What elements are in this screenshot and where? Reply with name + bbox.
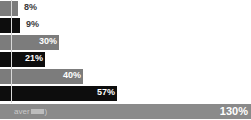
average-value: 130% (220, 104, 248, 119)
bar-row: 9% (0, 17, 251, 34)
bar-row: 21% (0, 51, 251, 68)
bar-value-3: 21% (25, 51, 43, 66)
horizontal-bar-chart: 8% 9% 30% 21% 40% 57% aver) 130% (0, 0, 251, 120)
average-row: aver) 130% (0, 103, 251, 120)
bar-row: 8% (0, 0, 251, 17)
bar-value-2: 30% (39, 34, 57, 49)
axis-baseline (11, 0, 12, 103)
average-label-prefix: aver (14, 107, 30, 116)
bar-value-5: 57% (97, 85, 115, 100)
average-label-suffix: ) (45, 107, 48, 116)
bar-row: 57% (0, 85, 251, 102)
average-label: aver) (14, 104, 47, 119)
bar-value-4: 40% (63, 68, 81, 83)
bar-0 (0, 1, 18, 16)
redacted-block-icon (31, 109, 44, 114)
bar-value-0: 8% (24, 0, 37, 15)
bar-row: 30% (0, 34, 251, 51)
bar-1 (0, 18, 20, 33)
bar-value-1: 9% (26, 17, 39, 32)
bar-row: 40% (0, 68, 251, 85)
